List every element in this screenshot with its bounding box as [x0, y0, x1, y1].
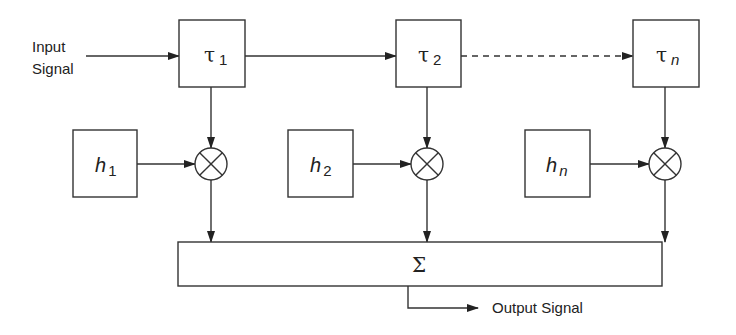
- weight-block-2: h2: [288, 130, 353, 197]
- multiplier-n-circled-times-icon: [649, 148, 681, 180]
- output-label: Output Signal: [492, 299, 583, 316]
- tapped-delay-line-diagram: Input Signal τ1 τ2 τn h1 h2 hn: [0, 0, 736, 335]
- multiplier-1-circled-times-icon: [195, 148, 227, 180]
- input-label-line2: Signal: [32, 60, 74, 77]
- weight-block-n: hn: [525, 130, 590, 197]
- delay-block-2: τ2: [396, 20, 461, 87]
- delay-block-1: τ1: [179, 20, 245, 87]
- input-label-line1: Input: [32, 38, 66, 55]
- summer-block: Σ: [178, 242, 662, 286]
- sigma-symbol: Σ: [412, 253, 426, 277]
- multiplier-2-circled-times-icon: [411, 148, 443, 180]
- delay-block-n: τn: [633, 20, 699, 87]
- output-arrow: [408, 286, 478, 308]
- weight-block-1: h1: [73, 130, 137, 197]
